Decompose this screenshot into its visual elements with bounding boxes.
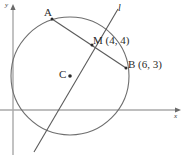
point-c-marker (68, 74, 72, 78)
geometry-figure: y x l A C M (4, 4) B (6, 3) (0, 0, 186, 157)
point-m-label: M (4, 4) (93, 35, 129, 46)
point-a-label: A (44, 7, 52, 18)
figure-canvas (0, 0, 186, 157)
y-axis-label: y (5, 2, 8, 9)
line-l (34, 9, 118, 152)
point-c-label: C (59, 69, 66, 80)
line-l-label: l (118, 3, 121, 13)
x-axis-label: x (174, 113, 177, 120)
point-b-label: B (6, 3) (128, 59, 162, 70)
x-axis (0, 107, 181, 112)
